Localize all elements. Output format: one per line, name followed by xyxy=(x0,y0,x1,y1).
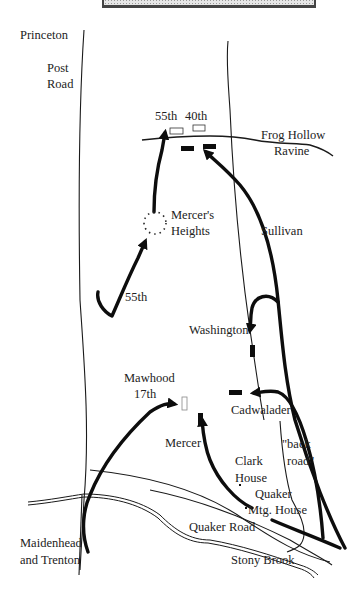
label-stony-brook: Stony Brook xyxy=(231,553,295,567)
arrow-washington xyxy=(250,296,278,330)
label-ravine: Ravine xyxy=(274,144,310,158)
label-quaker-road: Quaker Road xyxy=(189,520,256,534)
arrow-55th-retreat xyxy=(98,242,145,316)
label-back: "back xyxy=(282,437,311,451)
unit-mercer xyxy=(198,413,203,425)
arrow-lower-sweep xyxy=(272,520,340,548)
princeton-road-east xyxy=(227,41,264,420)
quaker-mtg-house-marker xyxy=(245,507,247,509)
label-post: Post xyxy=(47,61,69,75)
label-frog-hollow: Frog Hollow xyxy=(261,128,325,142)
label-17th: 17th xyxy=(134,387,157,401)
label-55th-mid: 55th xyxy=(125,290,148,304)
label-washington: Washington xyxy=(189,323,249,337)
label-road: Road xyxy=(47,77,74,91)
unit-cadwalader xyxy=(229,390,242,395)
label-clark: Clark xyxy=(235,454,264,468)
label-and-trenton: and Trenton xyxy=(20,553,81,567)
label-clark-house: House xyxy=(235,471,267,485)
unit-17th xyxy=(182,397,187,410)
label-mercers: Mercer's xyxy=(171,208,214,222)
british-units xyxy=(170,125,205,410)
label-princeton: Princeton xyxy=(20,28,69,42)
battle-of-princeton-map: Princeton Post Road 55th 40th Frog Hollo… xyxy=(0,0,362,605)
unit-55th xyxy=(170,128,183,134)
title-banner xyxy=(102,0,316,8)
arrow-mawhood-17th xyxy=(84,404,174,552)
label-40th-top: 40th xyxy=(185,109,208,123)
label-mawhood: Mawhood xyxy=(124,371,175,385)
post-road xyxy=(79,30,86,570)
label-quaker: Quaker xyxy=(255,487,293,501)
unit-40th xyxy=(193,125,205,131)
label-heights: Heights xyxy=(171,224,210,238)
arrow-55th-north xyxy=(154,133,165,212)
unit-washington xyxy=(250,345,255,357)
unit-a2 xyxy=(203,144,216,149)
label-mercer: Mercer xyxy=(165,436,202,450)
label-maidenhead: Maidenhead xyxy=(20,536,83,550)
label-back-road: road" xyxy=(287,454,314,468)
label-mtg-house: Mtg. House xyxy=(248,503,307,517)
unit-a1 xyxy=(181,146,194,151)
label-sullivan: Sullivan xyxy=(261,224,303,238)
label-cadwalader: Cadwalader xyxy=(231,403,292,417)
mercers-heights-marker xyxy=(144,212,166,234)
label-55th-top: 55th xyxy=(155,109,178,123)
